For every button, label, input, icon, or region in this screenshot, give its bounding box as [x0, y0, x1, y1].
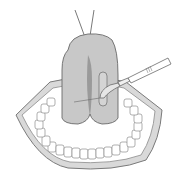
illustration-canvas: [0, 0, 181, 183]
tongue: [62, 34, 118, 124]
tongue-surgery-illustration: [0, 0, 181, 183]
